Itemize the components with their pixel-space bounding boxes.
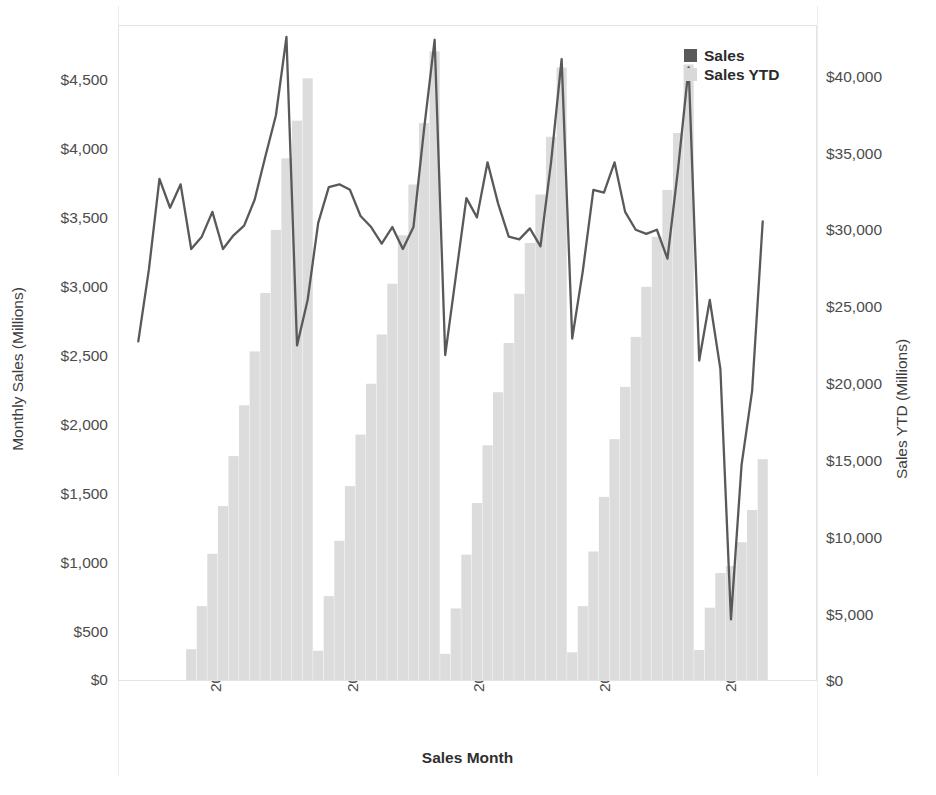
- legend-item-sales-ytd[interactable]: Sales YTD: [684, 67, 780, 83]
- legend-swatch-sales-ytd: [684, 68, 697, 81]
- ytd-bar: [377, 335, 387, 680]
- ytd-bar: [609, 439, 619, 680]
- ytd-bar: [493, 392, 503, 680]
- ytd-bar: [578, 606, 588, 680]
- right-tick-40000: $40,000: [826, 69, 882, 85]
- ytd-bar: [747, 510, 757, 680]
- ytd-bar: [408, 185, 418, 681]
- ytd-bar: [440, 654, 450, 680]
- ytd-bar: [525, 243, 535, 680]
- ytd-bar: [588, 552, 598, 680]
- right-tick-10000: $10,000: [826, 530, 882, 546]
- ytd-bar: [652, 237, 662, 680]
- left-tick-4500: $4,500: [61, 72, 108, 88]
- ytd-bar: [186, 649, 196, 680]
- ytd-bar: [197, 606, 207, 680]
- legend-label-sales: Sales: [704, 48, 745, 64]
- chart-canvas: [119, 26, 816, 680]
- ytd-bar: [334, 541, 344, 680]
- ytd-bar: [218, 506, 228, 680]
- ytd-bar: [324, 596, 334, 680]
- legend-label-sales-ytd: Sales YTD: [704, 67, 780, 83]
- right-tick-15000: $15,000: [826, 453, 882, 469]
- ytd-bar: [514, 294, 524, 680]
- ytd-bar: [620, 387, 630, 680]
- left-tick-500: $500: [74, 624, 108, 640]
- left-tick-2000: $2,000: [61, 417, 108, 433]
- ytd-bar: [292, 121, 302, 680]
- right-axis-tick-labels: $40,000 $35,000 $30,000 $25,000 $20,000 …: [826, 0, 936, 795]
- ytd-bar: [631, 337, 641, 680]
- ytd-bar: [736, 542, 746, 680]
- ytd-bar: [228, 456, 238, 680]
- ytd-bar: [662, 190, 672, 680]
- ytd-bar: [451, 608, 461, 680]
- left-axis-title: Monthly Sales (Millions): [9, 259, 27, 479]
- ytd-bar: [281, 158, 291, 680]
- left-tick-4000: $4,000: [61, 141, 108, 157]
- ytd-bar: [355, 435, 365, 680]
- ytd-bar: [345, 486, 355, 680]
- left-tick-3000: $3,000: [61, 279, 108, 295]
- right-tick-0: $0: [826, 673, 843, 689]
- ytd-bar: [303, 78, 313, 680]
- ytd-bar: [599, 497, 609, 680]
- ytd-bar: [546, 137, 556, 680]
- ytd-bar: [472, 503, 482, 680]
- right-tick-5000: $5,000: [826, 607, 873, 623]
- ytd-bar: [535, 195, 545, 681]
- left-tick-1000: $1,000: [61, 555, 108, 571]
- ytd-bar: [207, 554, 217, 680]
- ytd-bar: [504, 343, 514, 680]
- right-tick-35000: $35,000: [826, 146, 882, 162]
- ytd-bar: [387, 284, 397, 680]
- ytd-bar: [398, 235, 408, 680]
- ytd-bar: [482, 445, 492, 680]
- left-tick-2500: $2,500: [61, 348, 108, 364]
- ytd-bar: [239, 405, 249, 680]
- ytd-bar: [758, 459, 768, 680]
- ytd-bar: [567, 652, 577, 680]
- right-axis-title: Sales YTD (Millions): [893, 299, 911, 519]
- ytd-bar: [461, 555, 471, 680]
- ytd-bar: [715, 573, 725, 680]
- left-tick-3500: $3,500: [61, 210, 108, 226]
- ytd-bar: [419, 123, 429, 680]
- right-tick-25000: $25,000: [826, 299, 882, 315]
- ytd-bar: [366, 384, 376, 680]
- right-tick-30000: $30,000: [826, 222, 882, 238]
- ytd-bar: [641, 287, 651, 680]
- ytd-bar: [313, 651, 323, 680]
- ytd-bar: [271, 230, 281, 680]
- chart-screenshot: $4,500 $4,000 $3,500 $3,000 $2,500 $2,00…: [0, 0, 936, 795]
- ytd-bar: [705, 608, 715, 680]
- left-tick-1500: $1,500: [61, 486, 108, 502]
- right-tick-20000: $20,000: [826, 376, 882, 392]
- ytd-bar: [250, 351, 260, 680]
- ytd-bar: [673, 133, 683, 680]
- plot-area: [118, 25, 817, 681]
- chart-legend: Sales Sales YTD: [684, 48, 780, 85]
- x-axis-title: Sales Month: [118, 749, 817, 767]
- left-tick-0: $0: [91, 672, 108, 688]
- legend-item-sales[interactable]: Sales: [684, 48, 780, 64]
- legend-swatch-sales: [684, 49, 697, 62]
- ytd-bar: [694, 650, 704, 680]
- ytd-bar: [260, 293, 270, 680]
